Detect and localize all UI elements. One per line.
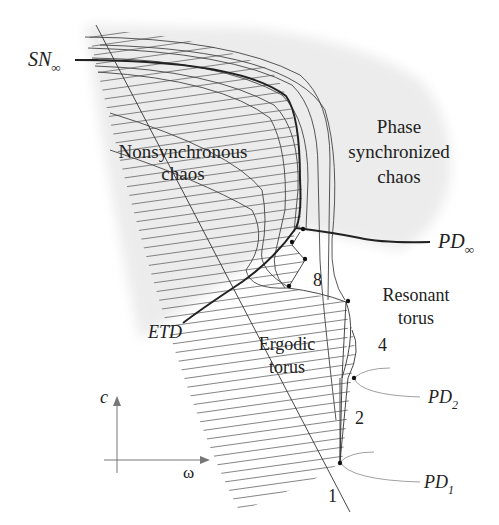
svg-text:Ergodic: Ergodic (259, 334, 316, 354)
svg-text:chaos: chaos (377, 166, 420, 187)
axes-indicator (104, 396, 210, 473)
svg-text:Nonsynchronous: Nonsynchronous (119, 141, 248, 162)
period-8-label: 8 (313, 270, 322, 290)
period-1-label: 1 (328, 486, 337, 506)
period-2-label: 2 (355, 408, 364, 428)
svg-text:Phase: Phase (377, 116, 421, 137)
pd-leaders (340, 368, 420, 482)
period-4-label: 4 (378, 335, 387, 355)
c-axis-label: c (100, 387, 108, 407)
pd-infinity-label: PD∞ (437, 230, 474, 257)
svg-text:torus: torus (398, 308, 434, 328)
pd2-label: PD2 (427, 387, 458, 412)
svg-text:Resonant: Resonant (383, 285, 450, 305)
region-resonant-torus: Resonant torus (383, 285, 450, 328)
sn-infinity-label: SN∞ (28, 48, 61, 75)
omega-axis-label: ω (183, 463, 194, 482)
svg-text:synchronized: synchronized (348, 141, 450, 162)
etd-label: ETD (147, 322, 182, 342)
svg-text:chaos: chaos (161, 163, 204, 184)
pd1-label: PD1 (423, 472, 454, 497)
bifurcation-diagram: SN∞ PD∞ ETD PD2 PD1 Nonsynchronous chaos… (0, 0, 499, 525)
svg-text:torus: torus (269, 357, 305, 377)
